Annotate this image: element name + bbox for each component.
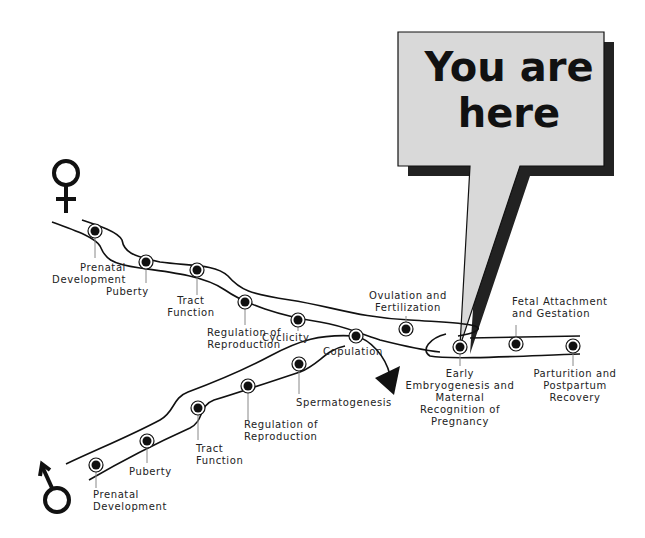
- pregnancy-path-road: [426, 334, 580, 358]
- female-label-puberty: Puberty: [106, 286, 149, 298]
- male-label-spermatogenesis: Spermatogenesis: [296, 397, 392, 409]
- female-label-prenatal: Prenatal Development: [48, 262, 126, 286]
- female-symbol-icon: [54, 161, 78, 213]
- male-label-prenatal: Prenatal Development: [93, 489, 167, 513]
- pregnancy-label-early-embryogenesis: Early Embryogenesis and Maternal Recogni…: [402, 368, 518, 428]
- male-label-tract-function: Tract Function: [196, 443, 243, 467]
- male-label-puberty: Puberty: [129, 466, 172, 478]
- male-label-regulation: Regulation of Reproduction: [244, 419, 318, 443]
- junction-label-copulation: Copulation: [323, 346, 383, 358]
- leader-lines: [95, 238, 573, 488]
- reproductive-timeline-diagram: You are here Prenatal Development Pubert…: [0, 0, 645, 538]
- female-label-ovulation: Ovulation and Fertilization: [360, 290, 456, 314]
- callout-text: You are here: [414, 44, 604, 136]
- male-symbol-icon: [40, 464, 69, 512]
- pregnancy-label-parturition: Parturition and Postpartum Recovery: [528, 368, 622, 404]
- female-label-cyclicity: Cyclicity: [262, 332, 309, 344]
- pregnancy-label-fetal-attachment: Fetal Attachment and Gestation: [512, 296, 608, 320]
- copulation-arrow-icon: [356, 336, 400, 395]
- female-label-tract-function: Tract Function: [166, 295, 216, 319]
